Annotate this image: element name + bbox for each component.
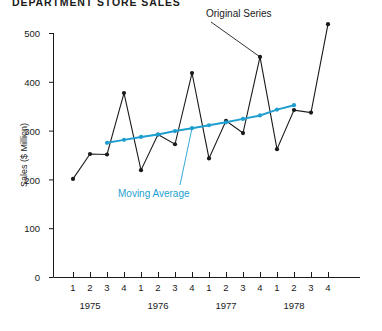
chart-plot-area <box>0 0 382 331</box>
chart-figure: DEPARTMENT STORE SALES Sales ($ Million)… <box>0 0 382 331</box>
y-axis <box>49 33 54 278</box>
series-moving-average <box>105 103 296 145</box>
x-axis <box>54 272 361 278</box>
annotation-leaders <box>180 22 260 185</box>
series-original <box>71 22 330 181</box>
